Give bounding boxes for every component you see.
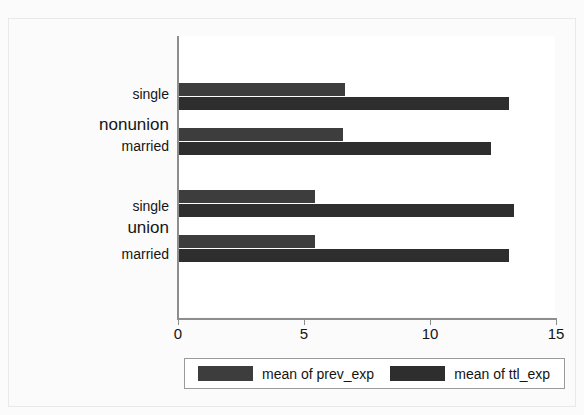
legend-entry-ttl-exp[interactable]: mean of ttl_exp bbox=[390, 366, 564, 382]
axis-group-label-nonunion: nonunion bbox=[99, 115, 169, 135]
y-axis-line bbox=[177, 36, 179, 319]
bar-union-married-ttl bbox=[179, 249, 509, 262]
legend-label-prev-exp: mean of prev_exp bbox=[262, 366, 374, 382]
x-axis-tick-10 bbox=[430, 318, 431, 325]
x-axis-tick-label-15: 15 bbox=[548, 325, 565, 342]
axis-label-union-married: married bbox=[122, 246, 169, 262]
bar-nonunion-married-prev bbox=[179, 128, 343, 141]
x-axis-line bbox=[177, 318, 557, 320]
axis-label-nonunion-married: married bbox=[122, 138, 169, 154]
x-axis-tick-label-0: 0 bbox=[174, 325, 182, 342]
legend-swatch-icon-prev-exp bbox=[198, 366, 253, 381]
chart-legend: mean of prev_exp mean of ttl_exp bbox=[184, 358, 565, 389]
bar-union-single-prev bbox=[179, 190, 315, 203]
bar-union-married-prev bbox=[179, 235, 315, 248]
legend-label-ttl-exp: mean of ttl_exp bbox=[454, 366, 550, 382]
bar-nonunion-single-prev bbox=[179, 83, 345, 96]
legend-entry-prev-exp[interactable]: mean of prev_exp bbox=[198, 366, 388, 382]
x-axis-tick-5 bbox=[304, 318, 305, 325]
axis-label-union-single: single bbox=[132, 198, 169, 214]
x-axis-tick-label-10: 10 bbox=[422, 325, 439, 342]
plot-area bbox=[177, 36, 555, 317]
axis-label-nonunion-single: single bbox=[132, 86, 169, 102]
chart-figure: 051015 single nonunion married single un… bbox=[0, 0, 584, 415]
x-axis-tick-15 bbox=[556, 318, 557, 325]
legend-swatch-icon-ttl-exp bbox=[390, 366, 445, 381]
bar-nonunion-single-ttl bbox=[179, 97, 509, 110]
axis-group-label-union: union bbox=[127, 218, 169, 238]
bar-union-single-ttl bbox=[179, 204, 514, 217]
bar-nonunion-married-ttl bbox=[179, 142, 491, 155]
x-axis-tick-0 bbox=[178, 318, 179, 325]
x-axis-tick-label-5: 5 bbox=[300, 325, 308, 342]
